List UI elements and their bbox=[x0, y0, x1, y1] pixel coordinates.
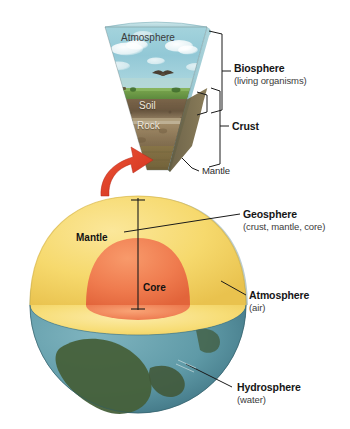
globe-mantle-label: Mantle bbox=[76, 232, 108, 243]
hydrosphere-sublabel: (water) bbox=[237, 394, 266, 405]
hydrosphere-label: Hydrosphere bbox=[237, 381, 301, 393]
globe-group bbox=[30, 196, 248, 416]
earth-spheres-figure: Atmosphere Soil Rock Mantle Biosphere (l… bbox=[0, 0, 350, 429]
mantle-wedge-leader bbox=[182, 158, 199, 171]
crust-bracket bbox=[209, 88, 220, 167]
mantle-wedge-label: Mantle bbox=[202, 165, 230, 176]
diagram-artwork bbox=[0, 0, 350, 429]
atmosphere-label: Atmosphere bbox=[249, 289, 309, 301]
biosphere-sublabel: (living organisms) bbox=[234, 75, 307, 86]
geosphere-label: Geosphere bbox=[243, 208, 297, 220]
wedge-rock-label: Rock bbox=[137, 120, 160, 131]
wedge-soil-label: Soil bbox=[139, 100, 156, 111]
crust-label: Crust bbox=[232, 120, 259, 132]
wedge-group bbox=[95, 20, 220, 176]
geosphere-sublabel: (crust, mantle, core) bbox=[243, 221, 325, 232]
atmosphere-sublabel: (air) bbox=[249, 302, 265, 313]
wedge-atmosphere-label: Atmosphere bbox=[121, 32, 175, 43]
globe-core-label: Core bbox=[143, 282, 166, 293]
biosphere-label: Biosphere bbox=[234, 62, 284, 74]
